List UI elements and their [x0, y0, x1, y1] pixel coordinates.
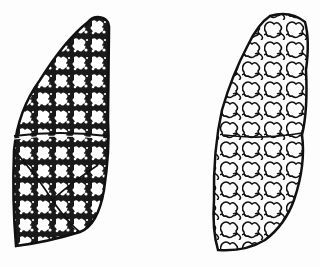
- left-lung: [13, 17, 109, 246]
- lungs-illustration: [0, 0, 320, 267]
- illustration-canvas: [0, 0, 320, 267]
- right-lung: [214, 14, 308, 250]
